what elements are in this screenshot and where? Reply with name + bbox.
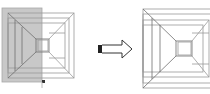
- after-drawing: [143, 9, 210, 88]
- grip-handle[interactable]: [42, 80, 45, 83]
- figure-canvas: [0, 0, 210, 94]
- result-arrow-icon: [98, 40, 132, 58]
- before-drawing: [2, 8, 74, 88]
